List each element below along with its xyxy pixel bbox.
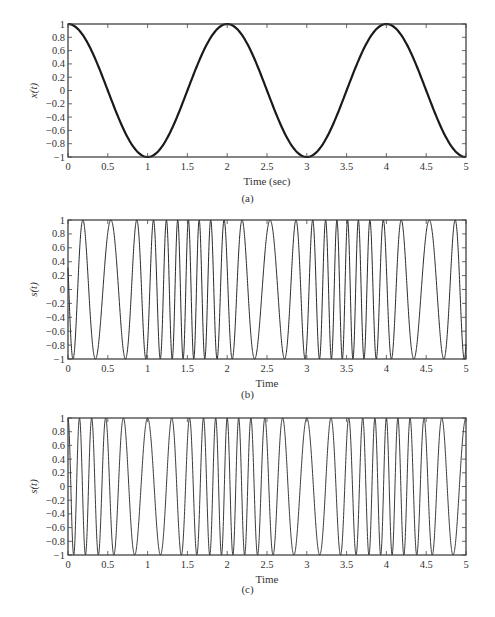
x-axis-label: Time (sec) [244,175,291,188]
y-tick-label: −0.4 [46,112,66,123]
y-tick-label: −0.6 [46,125,65,136]
caption-c: (c) [0,583,495,595]
x-tick-label: 3 [304,559,309,570]
x-tick-label: 0 [65,161,70,172]
y-tick-label: 0.4 [52,256,66,267]
y-tick-label: −1 [54,354,65,365]
y-tick-label: −0.4 [46,508,66,519]
x-tick-label: 1 [145,559,150,570]
y-axis-label: x(t) [27,83,40,100]
series-line [68,24,466,157]
y-tick-label: 0 [60,85,65,96]
y-tick-label: −1 [54,550,65,561]
x-tick-label: 2 [225,161,230,172]
y-tick-label: 0.4 [52,454,66,465]
y-tick-label: 0.2 [52,467,65,478]
x-tick-label: 4.5 [420,559,433,570]
y-tick-label: −1 [54,152,65,163]
x-tick-label: 3 [304,161,309,172]
caption-a: (a) [0,192,495,204]
x-tick-label: 0.5 [101,363,114,374]
series-line [68,220,466,359]
y-tick-label: 0.8 [52,426,65,437]
plot-s-of-t-pm: 00.511.522.533.544.5510.80.60.40.20−0.2−… [0,208,495,404]
y-tick-label: 0.6 [52,242,65,253]
x-tick-label: 2.5 [260,161,273,172]
figure-b: 00.511.522.533.544.5510.80.60.40.20−0.2−… [0,208,495,404]
y-tick-label: 0.6 [52,440,65,451]
x-tick-label: 4 [384,559,390,570]
x-tick-label: 0.5 [101,559,114,570]
y-tick-label: 0.8 [52,32,65,43]
x-tick-label: 3.5 [340,161,353,172]
figure-a: 00.511.522.533.544.5510.80.60.40.20−0.2−… [0,12,495,207]
caption-b: (b) [0,388,495,400]
y-tick-label: −0.2 [46,298,65,309]
x-tick-label: 2 [225,559,230,570]
y-tick-label: 0.4 [52,58,66,69]
y-tick-label: −0.6 [46,326,65,337]
x-tick-label: 1.5 [181,559,194,570]
x-tick-label: 5 [463,363,468,374]
y-tick-label: 0 [60,481,65,492]
plot-s-of-t-fm: 00.511.522.533.544.5510.80.60.40.20−0.2−… [0,405,495,605]
y-tick-label: −0.8 [46,536,65,547]
x-tick-label: 2.5 [260,559,273,570]
x-tick-label: 3 [304,363,309,374]
x-tick-label: 2 [225,363,230,374]
y-tick-label: −0.8 [46,138,65,149]
x-tick-label: 2.5 [260,363,273,374]
y-tick-label: −0.2 [46,98,65,109]
x-tick-label: 1 [145,363,150,374]
y-axis-label: s(t) [27,282,40,297]
y-tick-label: −0.6 [46,522,65,533]
y-tick-label: 0.2 [52,72,65,83]
y-tick-label: 0.6 [52,45,65,56]
y-tick-label: −0.8 [46,340,65,351]
y-tick-label: 1 [60,19,65,30]
x-tick-label: 4 [384,161,390,172]
x-tick-label: 1.5 [181,161,194,172]
x-tick-label: 4.5 [420,161,433,172]
x-tick-label: 1.5 [181,363,194,374]
x-tick-label: 0 [65,559,70,570]
series-line [68,418,466,555]
plot-frame [68,220,466,359]
y-tick-label: −0.4 [46,312,66,323]
figure-c: 00.511.522.533.544.5510.80.60.40.20−0.2−… [0,405,495,605]
x-tick-label: 3.5 [340,559,353,570]
x-tick-label: 0 [65,363,70,374]
y-tick-label: 0.2 [52,270,65,281]
y-tick-label: 0 [60,284,65,295]
x-tick-label: 4 [384,363,390,374]
x-tick-label: 0.5 [101,161,114,172]
plot-x-of-t: 00.511.522.533.544.5510.80.60.40.20−0.2−… [0,12,495,207]
y-tick-label: 0.8 [52,228,65,239]
x-tick-label: 5 [463,559,468,570]
y-tick-label: −0.2 [46,495,65,506]
x-tick-label: 5 [463,161,468,172]
x-tick-label: 1 [145,161,150,172]
x-tick-label: 3.5 [340,363,353,374]
x-tick-label: 4.5 [420,363,433,374]
y-axis-label: s(t) [27,479,40,494]
y-tick-label: 1 [60,413,65,424]
y-tick-label: 1 [60,215,65,226]
